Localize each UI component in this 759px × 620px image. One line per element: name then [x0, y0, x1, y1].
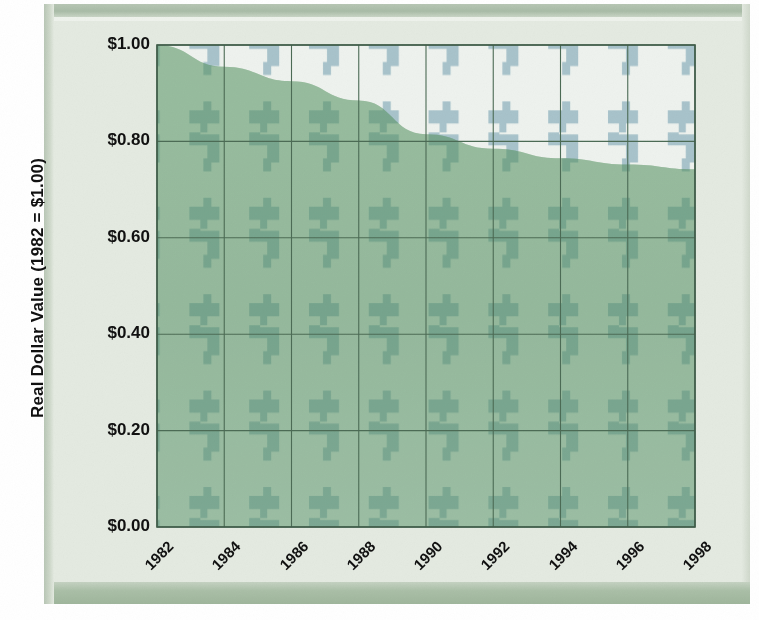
- x-axis-tick-label: 1986: [276, 537, 312, 573]
- x-axis-tick-label: 1998: [679, 537, 715, 573]
- x-axis-tick-label: 1988: [343, 537, 379, 573]
- x-axis-tick-labels: 198219841986198819901992199419961998: [0, 0, 759, 620]
- x-axis-tick-label: 1984: [208, 537, 244, 573]
- x-axis-tick-label: 1992: [477, 537, 513, 573]
- x-axis-tick-label: 1996: [612, 537, 648, 573]
- x-axis-tick-label: 1994: [545, 537, 581, 573]
- x-axis-tick-label: 1982: [141, 537, 177, 573]
- x-axis-tick-label: 1990: [410, 537, 446, 573]
